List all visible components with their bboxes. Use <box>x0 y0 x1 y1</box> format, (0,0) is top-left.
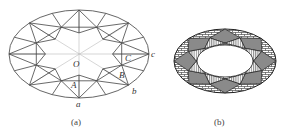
point-label-O: O <box>73 59 80 69</box>
point-labels: OABCabc <box>70 49 155 109</box>
table-facet <box>197 45 253 77</box>
point-label-B: B <box>119 70 125 80</box>
caption-a: (a) <box>71 117 81 127</box>
point-label-a: a <box>76 99 81 109</box>
point-label-A: A <box>70 80 77 90</box>
figure-a: OABCabc (a) <box>9 10 155 127</box>
point-label-c: c <box>151 49 155 59</box>
point-label-C: C <box>125 53 132 63</box>
point-label-b: b <box>132 86 137 96</box>
figure-b: (b) <box>174 29 276 127</box>
caption-b: (b) <box>214 117 225 127</box>
figure: OABCabc (a) (b) <box>0 0 286 140</box>
